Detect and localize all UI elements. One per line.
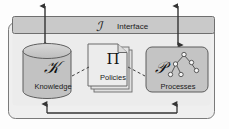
interface-bar [13,17,215,34]
diagram-canvas: ℐ Interface 𝒦 Knowledge Π Policies 𝒫 Pro… [0,0,229,129]
knowledge-node[interactable] [23,44,71,99]
policies-node[interactable] [88,44,132,92]
processes-node[interactable] [146,47,208,92]
architecture-diagram [0,0,229,129]
